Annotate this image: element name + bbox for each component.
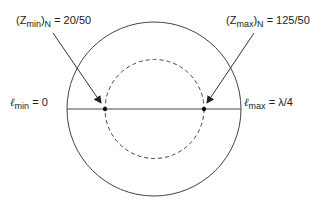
zmax-arrow [207,33,254,103]
zmin-arrow [53,33,101,103]
lmax-label: ℓmax = λ/4 [244,96,293,111]
lmin-label: ℓmin = 0 [10,96,48,111]
zmax-point [202,107,206,111]
zmax-label: (Zmax)N = 125/50 [226,14,310,29]
zmin-label: (Zmin)N = 20/50 [16,14,91,29]
zmin-point [103,107,107,111]
